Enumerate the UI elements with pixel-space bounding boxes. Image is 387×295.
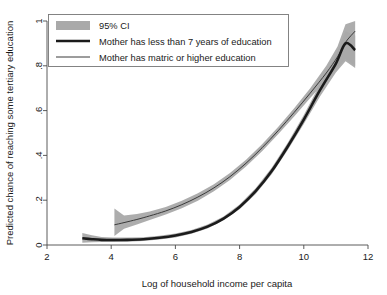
y-axis-title: Predicted chance of reaching some tertia… [4,21,15,245]
legend-swatch-ci [56,21,90,30]
legend-label-less-than-7-years: Mother has less than 7 years of educatio… [99,37,272,47]
x-tick-label: 4 [109,251,114,262]
chart-legend: 95% CI Mother has less than 7 years of e… [49,15,289,67]
legend-label-matric-or-higher: Mother has matric or higher education [99,53,256,63]
x-tick-label: 8 [237,251,242,262]
chart-canvas: 0.2.4.6.81 24681012 Log of household inc… [0,0,387,295]
y-tick-label: .4 [33,151,44,159]
y-tick-label: .8 [33,62,44,70]
y-tick-label: 0 [33,242,44,247]
x-tick-label: 6 [173,251,178,262]
y-tick-label: 1 [33,18,44,23]
legend-label-ci: 95% CI [99,21,130,31]
y-tick-label: .2 [33,196,44,204]
series-line-less-than-7-years [82,43,355,240]
x-tick-label: 12 [363,251,374,262]
x-axis-ticks: 24681012 [44,245,373,262]
y-tick-label: .6 [33,107,44,115]
x-tick-label: 2 [44,251,49,262]
x-tick-label: 10 [299,251,310,262]
page-caption-strip [0,283,387,295]
y-axis-ticks: 0.2.4.6.81 [33,18,47,247]
chart-figure: 0.2.4.6.81 24681012 Log of household inc… [0,0,387,295]
